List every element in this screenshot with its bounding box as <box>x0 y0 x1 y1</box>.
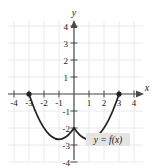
endpoint-dot-right <box>116 91 121 96</box>
ytick-label-3: 3 <box>64 39 69 49</box>
function-graph-figure: -4 -3 -2 -1 1 2 3 4 4 3 2 1 -1 -2 -3 -4 … <box>0 0 154 167</box>
ytick-label-neg1: -1 <box>63 107 71 117</box>
ytick-label-neg2: -2 <box>63 124 71 134</box>
xtick-label-4: 4 <box>132 98 137 108</box>
ytick-label-neg4: -4 <box>63 158 71 168</box>
xtick-label-1: 1 <box>87 98 92 108</box>
ytick-label-4: 4 <box>64 22 69 32</box>
y-axis-label: y <box>71 7 77 18</box>
xtick-label-neg4: -4 <box>10 98 18 108</box>
ytick-label-neg3: -3 <box>63 141 71 151</box>
x-axis-label: x <box>144 82 150 93</box>
xtick-label-2: 2 <box>102 98 107 108</box>
graph-canvas: -4 -3 -2 -1 1 2 3 4 4 3 2 1 -1 -2 -3 -4 … <box>0 0 154 167</box>
ytick-label-2: 2 <box>64 56 69 66</box>
y-axis <box>71 20 78 160</box>
endpoint-dot-left <box>26 91 31 96</box>
function-label-text: y = f(x) <box>93 135 123 146</box>
xtick-label-neg2: -2 <box>40 98 48 108</box>
ytick-label-1: 1 <box>64 73 69 83</box>
